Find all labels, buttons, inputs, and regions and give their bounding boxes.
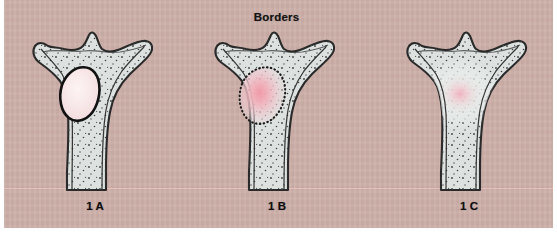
cancellous-stipple-1c [384,22,553,200]
panel-1b: 1 B [192,22,362,228]
panel-label-1b-text: 1 B [268,200,286,212]
bone-diagram-1c [384,22,553,200]
bone-diagram-1b [192,22,362,200]
bone-diagram-1a [10,22,180,200]
illustration-plate: Borders [4,0,553,228]
panel-label-1a: 1 A [10,200,180,212]
cancellous-stipple-1a [10,22,180,200]
panel-label-1c: 1 C [384,200,553,212]
panel-label-1c-text: 1 C [460,200,478,212]
panel-label-1a-text: 1 A [86,200,103,212]
panel-1c: 1 C [384,22,553,228]
lesion-1a [60,67,99,121]
panel-1a: 1 A [10,22,180,228]
bone-outline-1a [10,22,180,200]
figure-root: Borders [0,0,557,243]
bone-outline-1c [384,22,553,200]
panel-label-1b: 1 B [192,200,362,212]
